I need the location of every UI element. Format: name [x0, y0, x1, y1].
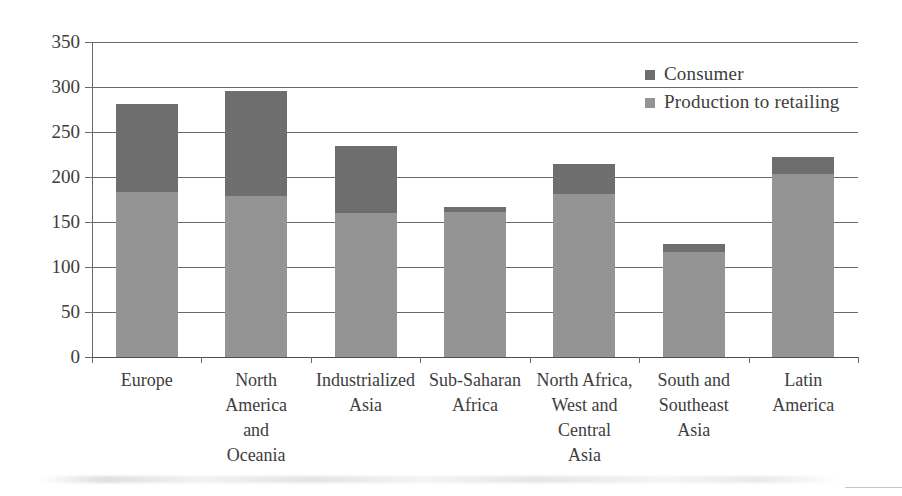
y-tick-label: 200	[52, 167, 81, 186]
bar-segment-consumer	[225, 91, 287, 196]
x-axis-label-line: West and	[530, 393, 639, 418]
x-axis-line	[92, 357, 858, 358]
x-axis-label-line: Asia	[639, 418, 748, 443]
x-axis-label-line: Africa	[420, 393, 529, 418]
x-axis-label: North Africa,West andCentralAsia	[530, 368, 639, 468]
bar-group	[116, 42, 178, 357]
y-tick-label: 100	[52, 257, 81, 276]
x-tick-mark	[530, 357, 531, 363]
x-axis-label: South andSoutheastAsia	[639, 368, 748, 443]
x-axis-label-line: North	[201, 368, 310, 393]
bar-group	[225, 42, 287, 357]
x-axis-label-line: Central	[530, 418, 639, 443]
x-tick-mark	[858, 357, 859, 363]
x-tick-mark	[201, 357, 202, 363]
bar-segment-production-to-retailing	[116, 192, 178, 357]
stacked-bar-chart: 350300250200150100500 EuropeNorthAmerica…	[0, 0, 902, 496]
x-axis-label-line: Europe	[92, 368, 201, 393]
x-axis-label-line: America	[201, 393, 310, 418]
bar-group	[553, 42, 615, 357]
y-tick-label: 250	[52, 122, 81, 141]
x-axis-label-line: Southeast	[639, 393, 748, 418]
x-tick-mark	[420, 357, 421, 363]
x-axis-label-line: Industrialized	[311, 368, 420, 393]
x-axis-label-line: America	[749, 393, 858, 418]
y-tick-label: 350	[52, 32, 81, 51]
x-axis-label-line: South and	[639, 368, 748, 393]
scan-artifact-rule	[845, 487, 902, 488]
bar-segment-production-to-retailing	[444, 212, 506, 357]
bar-segment-consumer	[335, 146, 397, 213]
x-axis-label-line: and	[201, 418, 310, 443]
legend-swatch-icon	[645, 70, 655, 80]
x-axis-label-line: North Africa,	[530, 368, 639, 393]
x-tick-mark	[92, 357, 93, 363]
legend-item: Production to retailing	[645, 88, 840, 116]
bar-segment-production-to-retailing	[225, 196, 287, 357]
legend-label: Consumer	[664, 60, 744, 88]
y-tick-label: 150	[52, 212, 81, 231]
chart-legend: ConsumerProduction to retailing	[645, 60, 840, 116]
x-axis-label: Europe	[92, 368, 201, 393]
bar-segment-consumer	[444, 207, 506, 212]
y-tick-label: 300	[52, 77, 81, 96]
y-tick-label: 50	[61, 302, 80, 321]
x-axis-label-line: Latin	[749, 368, 858, 393]
bar-segment-production-to-retailing	[335, 213, 397, 357]
x-axis-label-line: Asia	[530, 443, 639, 468]
x-tick-mark	[749, 357, 750, 363]
bar-segment-consumer	[663, 244, 725, 252]
bar-segment-production-to-retailing	[663, 252, 725, 357]
bar-segment-production-to-retailing	[772, 174, 834, 357]
x-axis-label-line: Oceania	[201, 443, 310, 468]
x-axis-label-line: Asia	[311, 393, 420, 418]
x-axis-label: Sub-SaharanAfrica	[420, 368, 529, 418]
legend-label: Production to retailing	[664, 88, 840, 116]
bar-group	[335, 42, 397, 357]
x-tick-mark	[311, 357, 312, 363]
scan-artifact-smudge	[40, 476, 840, 483]
legend-swatch-icon	[645, 98, 655, 108]
x-axis-label: NorthAmericaandOceania	[201, 368, 310, 468]
x-axis-label: LatinAmerica	[749, 368, 858, 418]
bar-group	[444, 42, 506, 357]
y-tick-label: 0	[71, 347, 81, 366]
x-tick-mark	[639, 357, 640, 363]
bar-segment-consumer	[772, 157, 834, 174]
bar-segment-consumer	[116, 104, 178, 192]
bar-segment-production-to-retailing	[553, 194, 615, 357]
x-axis-label: IndustrializedAsia	[311, 368, 420, 418]
bar-segment-consumer	[553, 164, 615, 195]
x-axis-label-line: Sub-Saharan	[420, 368, 529, 393]
legend-item: Consumer	[645, 60, 840, 88]
